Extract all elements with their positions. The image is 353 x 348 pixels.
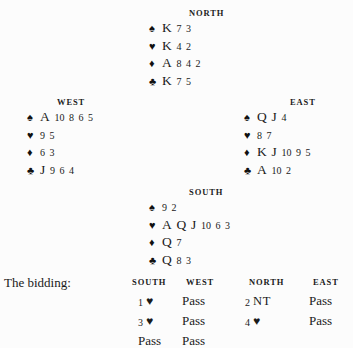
west-hand: ♠ A10865 ♥ 95 ♦ 63 ♣ J964: [27, 110, 93, 180]
diamond-icon: ♦: [27, 147, 40, 158]
north-club-cards: K75: [162, 74, 191, 88]
east-club-row: ♣ A102: [244, 163, 310, 181]
north-heart-row: ♥ K42: [149, 39, 200, 57]
heart-icon: ♥: [27, 130, 40, 141]
north-spade-row: ♠ K73: [149, 21, 200, 39]
east-diamond-row: ♦ KJ1095: [244, 145, 310, 163]
diamond-icon: ♦: [244, 147, 257, 158]
north-spade-cards: K73: [162, 21, 191, 35]
west-heart-cards: 95: [40, 128, 55, 142]
west-club-row: ♣ J964: [27, 163, 93, 181]
south-heart-cards: AQJ1063: [162, 218, 230, 232]
diamond-icon: ♦: [149, 237, 162, 248]
bid-west-2: Pass: [182, 314, 205, 327]
south-spade-cards: 92: [162, 200, 177, 214]
diamond-icon: ♦: [149, 58, 162, 69]
east-diamond-cards: KJ1095: [257, 145, 310, 159]
bid-south-2: 3♥: [138, 314, 153, 327]
club-icon: ♣: [149, 255, 162, 266]
north-hand: ♠ K73 ♥ K42 ♦ A842 ♣ K75: [149, 21, 200, 91]
club-icon: ♣: [27, 165, 40, 176]
south-club-row: ♣ Q83: [149, 253, 230, 271]
spade-icon: ♠: [244, 112, 257, 123]
bidding-caption: The bidding:: [4, 275, 71, 291]
bidding-column-west: WEST: [186, 277, 214, 287]
east-heart-cards: 87: [257, 128, 272, 142]
bidding-column-north: NORTH: [249, 277, 284, 287]
east-heart-row: ♥ 87: [244, 128, 310, 146]
south-club-cards: Q83: [162, 253, 191, 267]
west-label: WEST: [57, 97, 85, 107]
spade-icon: ♠: [149, 23, 162, 34]
south-hand: ♠ 92 ♥ AQJ1063 ♦ Q7 ♣ Q83: [149, 200, 230, 270]
south-heart-row: ♥ AQJ1063: [149, 218, 230, 236]
heart-icon: ♥: [149, 41, 162, 52]
east-spade-row: ♠ QJ4: [244, 110, 310, 128]
east-hand: ♠ QJ4 ♥ 87 ♦ KJ1095 ♣ A102: [244, 110, 310, 180]
west-diamond-cards: 63: [40, 145, 55, 159]
club-icon: ♣: [244, 165, 257, 176]
heart-icon: ♥: [244, 130, 257, 141]
bidding-column-east: EAST: [313, 277, 339, 287]
south-diamond-row: ♦ Q7: [149, 235, 230, 253]
south-diamond-cards: Q7: [162, 235, 181, 249]
north-heart-cards: K42: [162, 39, 191, 53]
north-club-row: ♣ K75: [149, 74, 200, 92]
bid-north-1: 2NT: [245, 294, 271, 308]
south-spade-row: ♠ 92: [149, 200, 230, 218]
west-heart-row: ♥ 95: [27, 128, 93, 146]
east-spade-cards: QJ4: [257, 110, 286, 124]
west-club-cards: J964: [40, 163, 74, 177]
west-spade-cards: A10865: [40, 110, 93, 124]
east-label: EAST: [290, 97, 316, 107]
bid-east-2: Pass: [309, 314, 332, 327]
club-icon: ♣: [149, 76, 162, 87]
spade-icon: ♠: [27, 112, 40, 123]
bid-east-1: Pass: [309, 294, 332, 307]
bid-south-3: Pass: [138, 334, 161, 347]
bid-west-1: Pass: [182, 294, 205, 307]
bid-west-3: Pass: [182, 334, 205, 347]
spade-icon: ♠: [149, 202, 162, 213]
bid-south-1: 1♥: [138, 294, 153, 307]
bidding-column-south: SOUTH: [132, 277, 166, 287]
north-label: NORTH: [189, 8, 224, 18]
north-diamond-cards: A842: [162, 56, 200, 70]
heart-icon: ♥: [149, 220, 162, 231]
west-diamond-row: ♦ 63: [27, 145, 93, 163]
north-diamond-row: ♦ A842: [149, 56, 200, 74]
east-club-cards: A102: [257, 163, 291, 177]
west-spade-row: ♠ A10865: [27, 110, 93, 128]
bid-north-2: 4♥: [245, 314, 260, 327]
south-label: SOUTH: [189, 187, 223, 197]
